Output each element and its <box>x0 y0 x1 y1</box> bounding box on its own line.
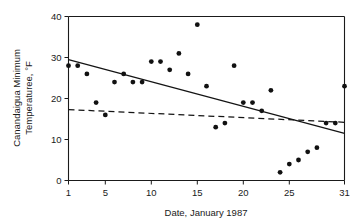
x-tick-label: 15 <box>192 187 203 198</box>
y-tick-label: 20 <box>51 93 62 104</box>
x-tick-label: 31 <box>339 187 350 198</box>
data-point <box>140 80 145 85</box>
data-point <box>112 80 117 85</box>
data-point <box>66 63 71 68</box>
x-tick-label: 25 <box>284 187 295 198</box>
y-tick-label: 40 <box>51 11 62 22</box>
data-point <box>149 59 154 64</box>
x-tick-label: 20 <box>238 187 249 198</box>
data-point <box>324 121 329 126</box>
data-point <box>131 80 136 85</box>
data-point <box>75 63 80 68</box>
trend-lines-group <box>69 60 345 134</box>
data-point <box>287 162 292 167</box>
data-point <box>85 72 90 77</box>
regression-line-dashed <box>69 110 345 123</box>
data-point <box>296 158 301 163</box>
data-point <box>259 108 264 113</box>
data-point <box>333 121 338 126</box>
data-point <box>305 149 310 154</box>
data-point <box>177 51 182 56</box>
chart-figure: 010203040 151015202531 Date, January 198… <box>0 0 359 223</box>
plot-frame <box>69 17 345 181</box>
y-axis-title-line1: Canandaigua Minimum <box>11 49 22 147</box>
data-point <box>94 100 99 105</box>
regression-line-solid <box>69 60 345 134</box>
data-point <box>223 121 228 126</box>
x-tick-label: 5 <box>103 187 108 198</box>
scatter-plot: 010203040 151015202531 Date, January 198… <box>0 0 359 223</box>
x-axis-title: Date, January 1987 <box>165 207 248 218</box>
y-tick-label: 10 <box>51 134 62 145</box>
data-point <box>250 100 255 105</box>
data-point <box>269 88 274 93</box>
data-point <box>278 170 283 175</box>
data-point <box>167 67 172 72</box>
data-point <box>342 84 347 89</box>
x-tick-label: 1 <box>66 187 71 198</box>
y-axis-title-line2: Temperaturee, °F <box>23 61 34 135</box>
data-point <box>158 59 163 64</box>
y-tick-label: 0 <box>56 175 61 186</box>
data-point <box>186 72 191 77</box>
x-tick-label: 10 <box>146 187 157 198</box>
data-point <box>241 100 246 105</box>
data-point <box>103 113 108 118</box>
data-points-group <box>66 22 347 174</box>
data-point <box>213 125 218 130</box>
data-point <box>204 84 209 89</box>
data-point <box>121 72 126 77</box>
y-axis-ticks: 010203040 <box>51 11 69 186</box>
data-point <box>195 22 200 27</box>
data-point <box>315 145 320 150</box>
data-point <box>232 63 237 68</box>
y-tick-label: 30 <box>51 52 62 63</box>
x-axis-ticks: 151015202531 <box>66 181 350 198</box>
